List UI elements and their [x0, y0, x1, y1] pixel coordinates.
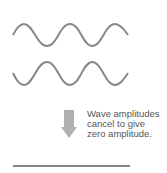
wave-bottom	[13, 62, 128, 85]
caption: Wave amplitudes cancel to give zero ampl…	[87, 109, 160, 139]
down-arrow-icon	[61, 110, 77, 138]
wave-top	[13, 24, 128, 46]
interference-diagram	[0, 0, 167, 173]
caption-line-3: zero amplitude.	[87, 129, 160, 139]
